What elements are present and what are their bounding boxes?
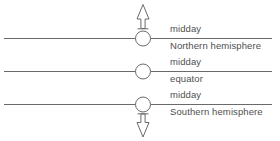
label-midday-southern: midday (170, 89, 201, 100)
up-arrow-icon (137, 5, 149, 29)
label-midday-northern: midday (170, 23, 201, 34)
observer-circle-southern (136, 97, 151, 112)
observer-circle-northern (136, 31, 151, 46)
label-southern-hemisphere: Southern hemisphere (170, 106, 263, 117)
row-southern-hemisphere (4, 97, 272, 137)
diagram-canvas: midday Northern hemisphere midday equato… (0, 0, 280, 141)
observer-circle-equator (136, 64, 151, 79)
label-midday-equator: midday (170, 56, 201, 67)
label-equator: equator (170, 73, 203, 84)
label-northern-hemisphere: Northern hemisphere (170, 40, 261, 51)
down-arrow-icon (137, 114, 149, 137)
row-equator (4, 64, 272, 79)
diagram-vector-layer (0, 0, 280, 141)
